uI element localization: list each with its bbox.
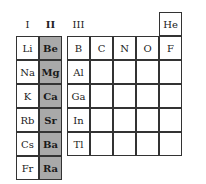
element-cell: Fr bbox=[16, 156, 39, 180]
empty-cell bbox=[113, 60, 136, 84]
empty-cell bbox=[136, 60, 159, 84]
empty-cell bbox=[136, 84, 159, 108]
empty-cell bbox=[90, 132, 113, 156]
element-cell-highlighted: Ca bbox=[39, 84, 62, 108]
element-cell: Tl bbox=[67, 132, 90, 156]
element-cell: Ga bbox=[67, 84, 90, 108]
group-header-1: I bbox=[16, 19, 39, 30]
element-cell-highlighted: Mg bbox=[39, 60, 62, 84]
element-cell: In bbox=[67, 108, 90, 132]
empty-cell bbox=[90, 60, 113, 84]
element-cell: B bbox=[67, 36, 90, 60]
empty-cell bbox=[113, 84, 136, 108]
element-cell: O bbox=[136, 36, 159, 60]
group-header-2: II bbox=[39, 19, 62, 30]
element-cell: K bbox=[16, 84, 39, 108]
element-cell: C bbox=[90, 36, 113, 60]
element-cell: N bbox=[113, 36, 136, 60]
element-cell-highlighted: Sr bbox=[39, 108, 62, 132]
empty-cell bbox=[159, 60, 182, 84]
element-cell: He bbox=[159, 12, 182, 36]
element-cell: Rb bbox=[16, 108, 39, 132]
element-cell: Cs bbox=[16, 132, 39, 156]
element-cell: Na bbox=[16, 60, 39, 84]
element-cell: F bbox=[159, 36, 182, 60]
empty-cell bbox=[136, 108, 159, 132]
empty-cell bbox=[113, 132, 136, 156]
element-cell: Li bbox=[16, 36, 39, 60]
empty-cell bbox=[136, 132, 159, 156]
element-cell-highlighted: Be bbox=[39, 36, 62, 60]
empty-cell bbox=[90, 84, 113, 108]
empty-cell bbox=[113, 108, 136, 132]
element-cell: Al bbox=[67, 60, 90, 84]
empty-cell bbox=[90, 108, 113, 132]
empty-cell bbox=[159, 132, 182, 156]
element-cell-highlighted: Ra bbox=[39, 156, 62, 180]
element-cell-highlighted: Ba bbox=[39, 132, 62, 156]
empty-cell bbox=[159, 108, 182, 132]
group-header-3: III bbox=[67, 19, 90, 30]
empty-cell bbox=[159, 84, 182, 108]
